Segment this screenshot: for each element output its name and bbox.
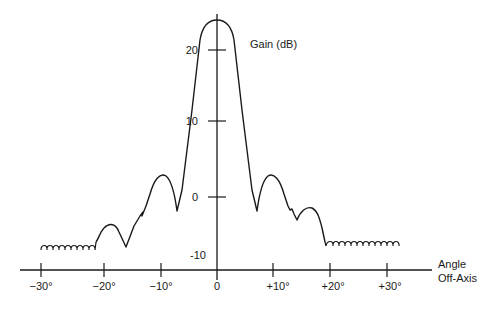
x-label-plus30: +30° bbox=[378, 280, 401, 292]
y-label-20: 20 bbox=[186, 44, 198, 56]
x-axis-title-line2: Off-Axis bbox=[438, 272, 477, 284]
y-label-minus10: -10 bbox=[190, 249, 206, 261]
gain-pattern-chart: 20 10 0 -10 −30° −20° −10° 0 +10° +20° +… bbox=[0, 0, 492, 310]
y-label-0: 0 bbox=[192, 191, 198, 203]
right-sidelobe-ripple bbox=[325, 242, 399, 247]
x-label-0: 0 bbox=[214, 280, 220, 292]
x-label-plus10: +10° bbox=[266, 280, 289, 292]
x-label-minus10: −10° bbox=[149, 280, 172, 292]
left-sidelobe-ripple bbox=[41, 242, 96, 250]
x-label-minus30: −30° bbox=[29, 280, 52, 292]
x-axis-title-line1: Angle bbox=[438, 258, 466, 270]
y-label-10: 10 bbox=[186, 115, 198, 127]
y-axis-title: Gain (dB) bbox=[250, 38, 297, 50]
gain-curve bbox=[96, 20, 325, 247]
x-label-minus20: −20° bbox=[92, 280, 115, 292]
x-label-plus20: +20° bbox=[321, 280, 344, 292]
